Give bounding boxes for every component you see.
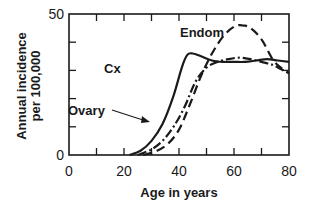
series-lines — [130, 25, 290, 155]
x-tick-label: 20 — [116, 163, 132, 179]
ticks — [69, 14, 289, 155]
x-axis-title: Age in years — [140, 185, 217, 200]
label-ovary: Ovary — [68, 103, 106, 118]
ovary-arrowhead-icon — [141, 116, 150, 123]
x-tick-label: 0 — [65, 163, 73, 179]
y-tick-label: 50 — [48, 6, 64, 22]
plot-frame — [69, 14, 289, 155]
label-cx: Cx — [104, 61, 121, 76]
y-axis-title-line-1: Annual incidence — [14, 32, 29, 140]
ovary-arrow — [112, 110, 146, 121]
y-tick-label: 0 — [56, 147, 64, 163]
series-cx-line — [130, 53, 290, 155]
y-axis-title: Annual incidence per 100,000 — [14, 32, 43, 140]
x-tick-label: 60 — [226, 163, 242, 179]
series-endom-line — [143, 25, 289, 155]
incidence-chart: 020406080050 EndomCxOvary Age in years A… — [0, 0, 311, 210]
x-tick-label: 80 — [281, 163, 297, 179]
x-tick-label: 40 — [171, 163, 187, 179]
y-axis-title-line-2: per 100,000 — [28, 51, 43, 122]
series-ovary-line — [138, 58, 289, 155]
label-endom: Endom — [180, 25, 224, 40]
axes — [69, 14, 289, 155]
tick-labels: 020406080050 — [48, 6, 297, 179]
